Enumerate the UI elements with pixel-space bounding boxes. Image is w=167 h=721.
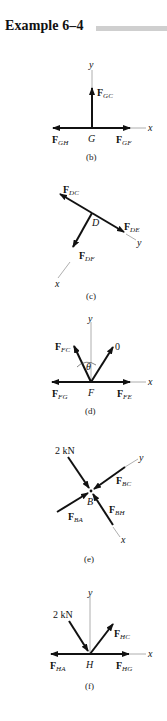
force-label-gh: FGH [52,134,69,147]
joint-dot [90,490,93,493]
diagram-b: y x FGC FGH G FGF (b) [52,59,153,162]
joint-label-f: F [87,387,95,398]
force-label-ba: FBA [68,511,83,524]
force-label-gf: FGF [116,134,132,147]
diagram-d: y x θ 0 FFC FFG F FFE (d) [52,313,153,416]
caption-d: (d) [85,406,96,416]
load-arrow-2kn [69,621,88,651]
joint-label-d: D [91,217,100,228]
diagram-e: y x 2 kN FBC FBA B FBH (e) [55,445,144,564]
load-arrow-2kn [68,457,89,488]
force-label-df: FDF [79,250,95,263]
x-axis-label: x [147,122,153,133]
diagram-c: x y FDC FDE D FDF (c) [54,184,142,301]
force-label-fg: FFG [52,388,67,401]
y-axis [126,234,136,240]
force-arrow-hc [90,624,113,654]
x-axis [58,262,70,278]
zero-force-label: 0 [115,341,120,352]
force-arrow-df [73,213,92,247]
force-label-hc: FHC [114,628,130,641]
x-axis-label: x [147,376,153,387]
zero-force-arrow [91,347,113,382]
y-axis-label: y [87,313,93,324]
force-label-hg: FHG [116,660,132,673]
force-label-fc: FFC [55,341,70,354]
force-label-bh: FBH [109,504,125,517]
caption-f: (f) [85,681,94,691]
y-axis [125,459,138,467]
joint-label-g: G [88,133,95,144]
angle-theta-label: θ [86,361,91,372]
load-label: 2 kN [55,445,75,456]
x-axis-label: x [147,648,153,659]
force-label-dc: FDC [63,184,79,197]
x-axis-label: x [120,534,126,545]
y-axis-label: y [138,452,144,463]
x-axis-label: x [54,278,60,289]
diagram-f: y x 2 kN FHC FHA H FHG (f) [50,587,153,691]
force-label-fe: FFE [117,388,132,401]
caption-e: (e) [84,554,94,564]
free-body-diagrams: y x FGC FGH G FGF (b) x y FDC FDE D FDF … [0,0,167,721]
joint-label-b: B [87,496,93,507]
y-axis-label: y [136,237,142,248]
y-axis-label: y [87,587,93,598]
x-axis [113,527,120,537]
force-label-ha: FHA [50,660,66,673]
load-label: 2 kN [53,609,73,620]
force-label-de: FDE [124,221,140,234]
force-arrow-ba [57,493,88,512]
force-label-bc: FBC [116,475,131,488]
caption-c: (c) [86,291,96,301]
caption-b: (b) [86,152,97,162]
force-label-gc: FGC [97,87,113,100]
y-axis-label: y [88,59,94,70]
joint-label-h: H [85,659,94,670]
